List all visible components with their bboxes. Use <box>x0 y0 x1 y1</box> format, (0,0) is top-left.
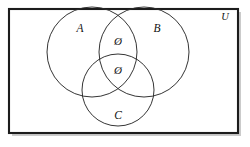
set-label-a: A <box>75 22 84 34</box>
set-label-c: C <box>114 109 122 121</box>
set-label-b: B <box>153 22 160 34</box>
venn-diagram-canvas: A B C U Ø Ø <box>0 0 250 147</box>
empty-set-mark-a-and-b: Ø <box>113 35 123 47</box>
empty-set-mark-a-and-b-and-c: Ø <box>113 64 123 76</box>
universe-rect <box>9 9 238 133</box>
venn-diagram-figure: A B C U Ø Ø <box>0 0 250 147</box>
